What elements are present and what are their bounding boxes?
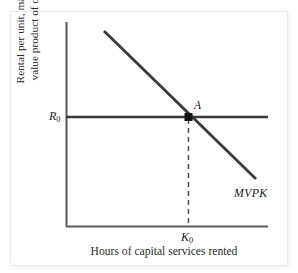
x-tick-k0-subscript: 0	[189, 236, 193, 245]
y-axis-title-line-2: value product of capital	[27, 0, 41, 102]
y-tick-label-r0: R0	[49, 110, 60, 122]
y-axis-title-line-1: Rental per unit, marginal	[13, 0, 27, 102]
x-tick-label-k0: K0	[181, 231, 193, 243]
y-axis-title: Rental per unit, marginal value product …	[13, 0, 53, 102]
mvpk-curve	[104, 31, 256, 179]
y-tick-r0-subscript: 0	[56, 115, 60, 124]
economics-figure: Rental per unit, marginal value product …	[0, 0, 298, 273]
mvpk-curve-label: MVPK	[234, 188, 267, 200]
equilibrium-marker	[185, 113, 193, 121]
x-axis-title: Hours of capital services rented	[74, 246, 254, 258]
equilibrium-point-label: A	[194, 100, 201, 112]
x-tick-k0-base: K	[181, 230, 189, 244]
